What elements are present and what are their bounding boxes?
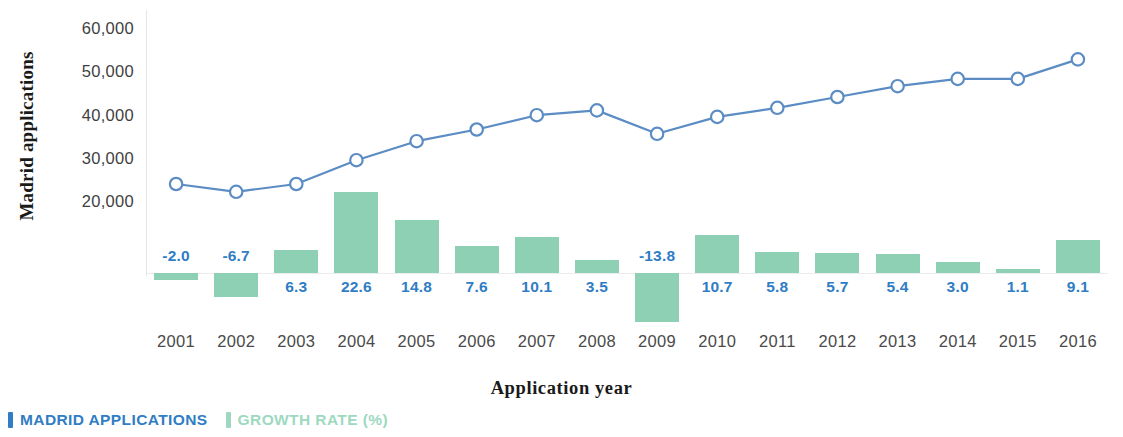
x-axis-tick-2016: 2016 [1038, 332, 1118, 351]
legend-swatch-icon [226, 412, 231, 428]
bar-2001 [154, 273, 198, 280]
bar-2002 [214, 273, 258, 297]
bar-2006 [455, 246, 499, 273]
y-axis-tick-60000: 60,000 [54, 19, 134, 38]
bar-2010 [695, 235, 739, 273]
legend-item-growth-rate[interactable]: GROWTH RATE (%) [226, 411, 388, 429]
line-marker-2014 [952, 73, 964, 85]
bar-2004 [334, 192, 378, 273]
line-marker-2001 [170, 178, 182, 190]
bar-2014 [936, 262, 980, 273]
line-marker-2012 [831, 91, 843, 103]
line-marker-2015 [1012, 73, 1024, 85]
y-axis-tick-30000: 30,000 [54, 149, 134, 168]
bar-2005 [395, 220, 439, 273]
bar-2011 [755, 252, 799, 273]
bar-2009 [635, 273, 679, 322]
bar-2015 [996, 269, 1040, 273]
line-marker-2004 [350, 154, 362, 166]
line-marker-2010 [711, 111, 723, 123]
chart-container: Madrid applications 20,00030,00040,00050… [0, 0, 1123, 437]
bar-2013 [876, 254, 920, 273]
bar-label-2009: -13.8 [622, 247, 692, 265]
y-axis-line [146, 10, 147, 276]
bar-label-2008: 3.5 [562, 278, 632, 296]
line-marker-2003 [290, 178, 302, 190]
bar-2003 [274, 250, 318, 273]
legend-item-madrid-applications[interactable]: MADRID APPLICATIONS [8, 411, 208, 429]
bar-2007 [515, 237, 559, 273]
line-marker-2006 [471, 123, 483, 135]
x-axis-title: Application year [0, 378, 1123, 399]
line-marker-2008 [591, 104, 603, 116]
legend-swatch-icon [8, 412, 13, 428]
line-marker-2016 [1072, 53, 1084, 65]
line-marker-2013 [891, 80, 903, 92]
legend-label: GROWTH RATE (%) [238, 411, 388, 429]
chart-legend: MADRID APPLICATIONSGROWTH RATE (%) [8, 411, 388, 429]
line-marker-2011 [771, 102, 783, 114]
line-marker-2007 [531, 109, 543, 121]
y-axis-title: Madrid applications [16, 16, 38, 256]
y-axis-tick-labels: 20,00030,00040,00050,00060,000 [52, 0, 134, 300]
bar-2008 [575, 260, 619, 273]
y-axis-tick-50000: 50,000 [54, 62, 134, 81]
bar-2012 [815, 253, 859, 273]
bar-label-2002: -6.7 [201, 247, 271, 265]
line-marker-2005 [410, 135, 422, 147]
bar-label-2016: 9.1 [1043, 278, 1113, 296]
y-axis-tick-40000: 40,000 [54, 106, 134, 125]
y-axis-tick-20000: 20,000 [54, 192, 134, 211]
zero-baseline [146, 273, 1108, 274]
line-marker-2009 [651, 128, 663, 140]
legend-label: MADRID APPLICATIONS [20, 411, 208, 429]
line-marker-2002 [230, 186, 242, 198]
bar-2016 [1056, 240, 1100, 273]
